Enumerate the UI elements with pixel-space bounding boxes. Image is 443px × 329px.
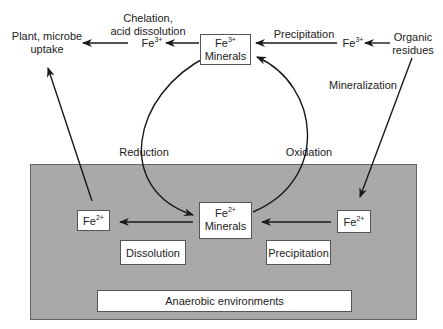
- fe3-minerals-base: Fe: [215, 37, 228, 49]
- fe3-right-charge: 3+: [355, 36, 363, 43]
- node-fe2-free-right: Fe2+: [337, 210, 371, 233]
- fe3-left-charge: 3+: [154, 36, 162, 43]
- chelation-line1: Chelation,: [108, 12, 188, 25]
- fe3-right-base: Fe: [343, 37, 356, 49]
- organic-line2: residues: [388, 44, 438, 57]
- fe2-minerals-label: Minerals: [200, 220, 251, 233]
- fe2-right-base: Fe: [344, 216, 357, 228]
- label-reduction: Reduction: [118, 146, 170, 159]
- fe3-minerals-label: Minerals: [201, 50, 250, 63]
- fe2-minerals-charge: 2+: [228, 206, 236, 213]
- node-organic-residues: Organic residues: [388, 31, 438, 57]
- node-fe3-free-right: Fe3+: [340, 37, 366, 50]
- label-mineralization: Mineralization: [328, 79, 398, 92]
- label-dissolution: Dissolution: [120, 240, 186, 265]
- node-fe2-minerals: Fe2+ Minerals: [199, 202, 252, 239]
- arrow-reduction: [141, 56, 208, 215]
- fe2-left-base: Fe: [83, 215, 96, 227]
- arrow-oxidation: [253, 57, 308, 212]
- label-oxidation: Oxidation: [285, 146, 333, 159]
- label-precipitation-bottom: Precipitation: [266, 240, 331, 265]
- node-fe3-free-left: Fe3+: [138, 37, 166, 50]
- label-precipitation-top: Precipitation: [272, 28, 336, 41]
- label-anaerobic-environments: Anaerobic environments: [97, 290, 352, 312]
- fe2-minerals-base: Fe: [215, 207, 228, 219]
- fe3-left-base: Fe: [142, 37, 155, 49]
- fe3-minerals-charge: 3+: [228, 36, 236, 43]
- fe2-right-charge: 2+: [356, 215, 364, 222]
- label-chelation: Chelation, acid dissolution: [108, 12, 188, 38]
- arrow-fe2-to-uptake: [48, 68, 92, 201]
- plant-uptake-line2: uptake: [8, 43, 86, 56]
- node-fe3-minerals: Fe3+ Minerals: [200, 34, 251, 65]
- plant-uptake-line1: Plant, microbe: [8, 30, 86, 43]
- node-plant-microbe-uptake: Plant, microbe uptake: [8, 30, 86, 56]
- organic-line1: Organic: [388, 31, 438, 44]
- fe2-left-charge: 2+: [96, 214, 104, 221]
- node-fe2-free-left: Fe2+: [77, 210, 110, 231]
